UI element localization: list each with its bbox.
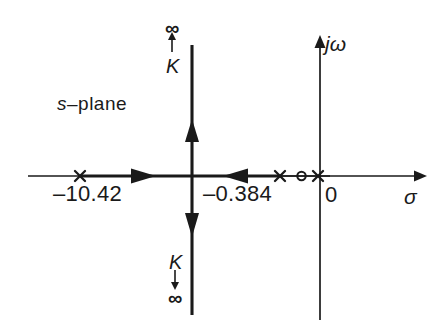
gain-label-bottom: K [169,252,182,272]
pole-value-label-minus-0-384: –0.384 [203,183,272,205]
sigma-axis-arrowhead [414,171,427,182]
pole-value-label-minus-10-42: –10.42 [53,183,122,205]
s-plane-label-rest: –plane [67,93,127,114]
locus-down-arrowhead [185,213,199,237]
locus-up-arrowhead [185,119,199,142]
root-locus-figure: s–plane ∞ K K ∞ jω σ –10.42 –0.384 0 [0,0,443,326]
sigma-axis-label: σ [404,186,417,207]
s-plane-label-italic-s: s [57,93,67,114]
gain-label-top: K [166,56,179,76]
infinity-label-bottom: ∞ [168,288,182,308]
origin-label: 0 [325,184,337,206]
root-locus-plot-svg [0,0,443,326]
locus-vertical-branch [185,45,199,315]
s-plane-label: s–plane [57,94,127,113]
locus-right-arrowhead [131,169,156,184]
jomega-axis-arrowhead [315,35,326,48]
infinity-label-top: ∞ [165,18,179,38]
jomega-axis-label: jω [325,33,346,54]
